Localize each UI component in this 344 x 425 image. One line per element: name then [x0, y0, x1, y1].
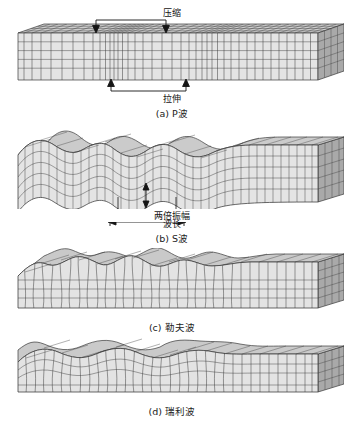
caption-text-d: 瑞利波: [165, 406, 196, 417]
panel-rayleigh-wave: (d)瑞利波: [0, 336, 344, 425]
rayleigh-wave-block-figure: [0, 336, 344, 404]
dilation-dimension-bracket: [108, 79, 190, 91]
panel-love-wave: (c)勒夫波: [0, 248, 344, 336]
love-block-end-face: [318, 254, 344, 308]
p-block-front-face: [18, 33, 318, 80]
panel-p-wave: 压缩 拉伸 (a)P波: [0, 0, 344, 125]
caption-p-wave: (a)P波: [0, 106, 344, 120]
wavelength-label: 波长: [0, 217, 344, 230]
caption-rayleigh-wave: (d)瑞利波: [0, 404, 344, 418]
love-wave-block-figure: [0, 248, 344, 320]
caption-s-wave: (b)S波: [0, 231, 344, 245]
caption-tag-b: (b): [156, 233, 169, 244]
caption-text-b: S波: [172, 233, 188, 244]
dilation-label: 拉伸: [0, 92, 344, 105]
caption-text-a: P波: [172, 108, 188, 119]
caption-love-wave: (c)勒夫波: [0, 320, 344, 334]
caption-text-c: 勒夫波: [165, 322, 196, 333]
panel-s-wave: 两倍振幅 波长 (b)S波: [0, 125, 344, 248]
s-block-end-face: [318, 137, 344, 202]
caption-tag-a: (a): [156, 108, 169, 119]
caption-tag-d: (d): [148, 406, 161, 417]
caption-tag-c: (c): [149, 322, 162, 333]
compression-label: 压缩: [0, 6, 344, 19]
